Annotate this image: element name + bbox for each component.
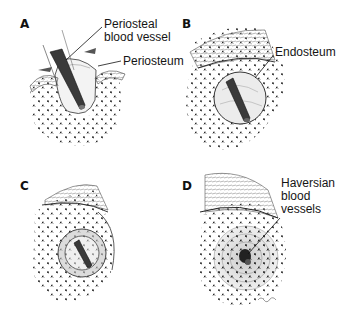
panel-letter-a: A	[20, 18, 29, 30]
panel-d: D Haversian blood vessels	[175, 160, 349, 323]
panel-letter-b: B	[182, 18, 191, 30]
panel-letter-d: D	[182, 180, 192, 192]
panel-a: A Periosteal blood vessel Periosteum	[0, 0, 175, 160]
label-haversian-blood-vessels: Haversian blood vessels	[281, 177, 335, 216]
label-periosteal-blood-vessel: Periosteal blood vessel	[104, 18, 171, 44]
label-endosteum: Endosteum	[275, 46, 336, 59]
panel-letter-c: C	[20, 180, 29, 192]
panel-b: B Endosteum	[175, 0, 349, 160]
panel-c: C	[0, 160, 175, 323]
